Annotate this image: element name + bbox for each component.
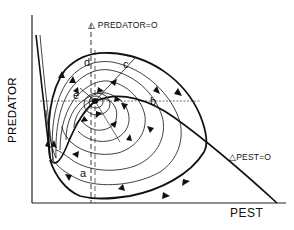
point-label-c: c	[123, 59, 129, 70]
pest-isocline-label: △PEST=O	[229, 153, 271, 162]
predator-isocline-label: △ PREDATOR=O	[88, 21, 158, 30]
phase-plane-diagram: PREDATOR PEST △ PREDATOR=O △PEST=O a b c…	[0, 0, 294, 230]
point-label-e: e	[73, 90, 79, 101]
diagram-canvas	[0, 0, 294, 230]
pest-isocline	[36, 35, 277, 203]
point-label-a: a	[80, 168, 86, 179]
direction-arrows	[45, 71, 190, 199]
point-label-d: d	[84, 57, 90, 68]
y-axis-label-text: PREDATOR	[6, 77, 18, 143]
x-axis-label: PEST	[230, 207, 263, 219]
y-axis-label: PREDATOR	[5, 55, 19, 165]
predator-isocline	[91, 24, 95, 203]
point-label-b: b	[150, 96, 156, 107]
